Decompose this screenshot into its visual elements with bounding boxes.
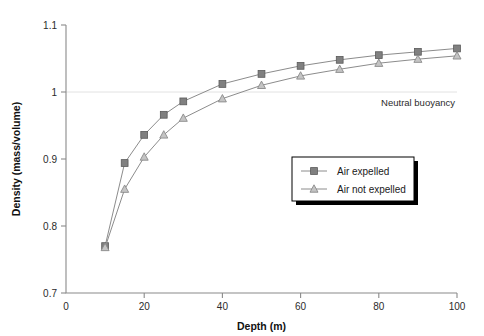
- y-axis-tick-labels: 0.70.80.911.1: [43, 20, 57, 299]
- data-point-triangle: [121, 185, 129, 192]
- y-tick-label: 1.1: [43, 20, 57, 31]
- data-point-triangle: [179, 114, 187, 121]
- x-axis-title: Depth (m): [237, 320, 286, 332]
- data-point-square: [121, 160, 128, 167]
- y-tick-label: 0.8: [43, 221, 57, 232]
- data-point-square: [141, 131, 148, 138]
- data-series-layer: [101, 45, 461, 251]
- data-point-square: [219, 81, 226, 88]
- data-point-square: [180, 98, 187, 105]
- data-point-triangle: [160, 131, 168, 138]
- y-tick-label: 0.7: [43, 288, 57, 299]
- data-point-square: [336, 56, 343, 63]
- y-tick-label: 0.9: [43, 154, 57, 165]
- x-tick-label: 100: [449, 301, 466, 312]
- series-2: [101, 52, 461, 251]
- legend-label: Air expelled: [337, 166, 389, 177]
- x-tick-label: 40: [217, 301, 229, 312]
- y-axis-ticks: [61, 25, 66, 293]
- x-tick-label: 0: [63, 301, 69, 312]
- x-tick-label: 60: [295, 301, 307, 312]
- legend-label: Air not expelled: [337, 184, 406, 195]
- data-point-square: [297, 62, 304, 69]
- y-axis-title: Density (mass/volume): [10, 102, 22, 216]
- series-line: [105, 56, 457, 248]
- data-point-square: [375, 52, 382, 59]
- chart-canvas: 020406080100 0.70.80.911.1 Neutral buoya…: [0, 0, 484, 336]
- data-point-square: [258, 71, 265, 78]
- y-tick-label: 1: [51, 87, 57, 98]
- series-line: [105, 48, 457, 246]
- annotation-neutral-buoyancy: Neutral buoyancy: [381, 97, 455, 108]
- x-axis-tick-labels: 020406080100: [63, 301, 466, 312]
- data-point-triangle: [453, 52, 461, 59]
- chart-annotations: Neutral buoyancy: [381, 97, 455, 108]
- data-point-square: [160, 111, 167, 118]
- legend-marker-square: [311, 168, 318, 175]
- series-1: [102, 45, 461, 249]
- x-axis-ticks: [144, 293, 457, 298]
- x-tick-label: 80: [373, 301, 385, 312]
- x-tick-label: 20: [139, 301, 151, 312]
- chart-legend[interactable]: Air expelledAir not expelled: [292, 157, 418, 205]
- chart-figure: 020406080100 0.70.80.911.1 Neutral buoya…: [0, 0, 484, 336]
